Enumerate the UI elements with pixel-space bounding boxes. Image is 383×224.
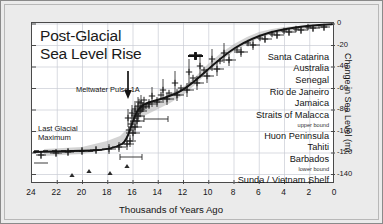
- x-tick-6: 6: [256, 187, 261, 197]
- legend-item-rio-de-janeiro[interactable]: Rio de Janeiro: [187, 86, 332, 98]
- legend-label: Australia: [293, 63, 332, 73]
- legend-item-santa-catarina[interactable]: Santa Catarina: [187, 51, 332, 63]
- x-tick-2: 2: [306, 187, 311, 197]
- y-tick-140: -140: [337, 169, 352, 178]
- legend-item-senegal[interactable]: Senegal: [187, 74, 332, 86]
- annotation-last-glacial-maximum: Last Glacial Maximum: [38, 124, 78, 142]
- lgm-line-1: Last Glacial: [38, 124, 78, 133]
- legend-item-barbados[interactable]: Barbados: [187, 153, 332, 165]
- x-axis-label: Thousands of Years Ago: [1, 204, 341, 215]
- x-tick-4: 4: [281, 187, 286, 197]
- legend-item-tahiti[interactable]: Tahiti: [187, 142, 332, 154]
- x-tick-12: 12: [178, 187, 187, 197]
- figure-container: Post-Glacial Sea Level Rise Meltwater Pu…: [0, 0, 383, 224]
- x-tick-20: 20: [77, 187, 86, 197]
- legend-label: lower bound: [299, 166, 332, 172]
- x-tick-18: 18: [102, 187, 111, 197]
- low-outlier-points: [69, 164, 129, 177]
- x-tick-16: 16: [127, 187, 136, 197]
- legend-item-straits-of-malacca[interactable]: Straits of Malacca: [187, 109, 332, 121]
- legend-item-lower-bound[interactable]: lower bound: [187, 165, 332, 174]
- legend-marker-plus-icon: [187, 51, 204, 61]
- legend-label: Straits of Malacca: [256, 110, 332, 120]
- plot-area: Post-Glacial Sea Level Rise Meltwater Pu…: [31, 22, 334, 183]
- legend-item-sunda-vietnam-shelf[interactable]: Sunda / Vietnam Shelf: [187, 174, 332, 186]
- legend-label: Barbados: [290, 154, 332, 164]
- legend-label: Huon Peninsula: [264, 131, 332, 141]
- x-tick-14: 14: [153, 187, 162, 197]
- annotation-meltwater-pulse-1a: Meltwater Pulse 1A: [76, 85, 140, 94]
- legend-label: Jamaica: [295, 98, 332, 108]
- legend-item-huon-peninsula[interactable]: Huon Peninsula: [187, 130, 332, 142]
- chart-title: Post-Glacial Sea Level Rise: [40, 27, 141, 64]
- chart-title-line-1: Post-Glacial: [40, 27, 141, 45]
- y-tick-20: -20: [337, 40, 348, 49]
- legend-label: Senegal: [295, 75, 332, 85]
- y-axis-label: Change in Sea Level (m): [343, 53, 353, 153]
- x-tick-24: 24: [26, 187, 35, 197]
- legend: Santa Catarina Australia Senegal: [187, 51, 332, 186]
- x-tick-10: 10: [203, 187, 212, 197]
- legend-item-upper-bound[interactable]: upper bound: [187, 121, 332, 130]
- x-tick-8: 8: [231, 187, 236, 197]
- x-tick-22: 22: [52, 187, 61, 197]
- legend-item-jamaica[interactable]: Jamaica: [187, 97, 332, 109]
- legend-label: upper bound: [298, 122, 332, 128]
- x-tick-0: 0: [332, 187, 337, 197]
- legend-label: Sunda / Vietnam Shelf: [238, 175, 332, 185]
- legend-label: Tahiti: [308, 142, 332, 152]
- chart-title-line-2: Sea Level Rise: [40, 45, 141, 63]
- lgm-line-2: Maximum: [38, 133, 78, 142]
- y-tick-0: 0: [337, 18, 341, 27]
- legend-label: Santa Catarina: [268, 52, 332, 62]
- legend-label: Rio de Janeiro: [270, 87, 332, 97]
- legend-item-australia[interactable]: Australia: [187, 63, 332, 75]
